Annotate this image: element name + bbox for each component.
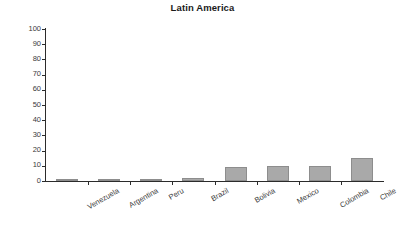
x-axis-label-peru: Peru xyxy=(167,186,185,202)
x-axis-tick-mark xyxy=(130,181,131,185)
bar-colombia xyxy=(309,166,331,181)
y-axis-tick-label: 80 xyxy=(0,55,41,63)
bar-venezuela xyxy=(56,179,78,181)
y-axis-tick-mark xyxy=(42,181,46,182)
y-axis-tick-label: 40 xyxy=(0,116,41,124)
x-axis-label-argentina: Argentina xyxy=(127,186,159,210)
y-axis-tick-label: 50 xyxy=(0,101,41,109)
x-axis-label-bolivia: Bolivia xyxy=(253,186,277,205)
y-axis-tick-label: 0 xyxy=(0,177,41,185)
y-axis-tick-label: 30 xyxy=(0,131,41,139)
x-axis-tick-mark xyxy=(341,181,342,185)
x-axis-label-chile: Chile xyxy=(378,186,397,202)
x-axis-tick-mark xyxy=(88,181,89,185)
chart-title: Latin America xyxy=(0,2,405,14)
bar-chart-figure: Latin America 0102030405060708090100 Ven… xyxy=(0,0,405,227)
plot-area xyxy=(46,29,383,181)
bar-peru xyxy=(140,179,162,181)
x-axis-label-venezuela: Venezuela xyxy=(86,186,121,211)
x-axis-tick-mark xyxy=(257,181,258,185)
y-axis-tick-label: 60 xyxy=(0,85,41,93)
bar-argentina xyxy=(98,179,120,181)
y-axis-tick-label: 10 xyxy=(0,161,41,169)
x-axis-label-brazil: Brazil xyxy=(210,186,231,203)
x-axis-label-mexico: Mexico xyxy=(295,186,320,206)
x-axis-tick-mark xyxy=(299,181,300,185)
bar-mexico xyxy=(267,166,289,181)
bar-bolivia xyxy=(225,167,247,181)
y-axis-tick-label: 100 xyxy=(0,25,41,33)
y-axis-tick-label: 90 xyxy=(0,40,41,48)
y-axis-tick-label: 70 xyxy=(0,70,41,78)
x-axis-tick-mark xyxy=(172,181,173,185)
bar-brazil xyxy=(182,178,204,181)
bar-chile xyxy=(351,158,373,181)
x-axis-tick-mark xyxy=(215,181,216,185)
y-axis-tick-label: 20 xyxy=(0,146,41,154)
x-axis-label-colombia: Colombia xyxy=(338,186,370,210)
